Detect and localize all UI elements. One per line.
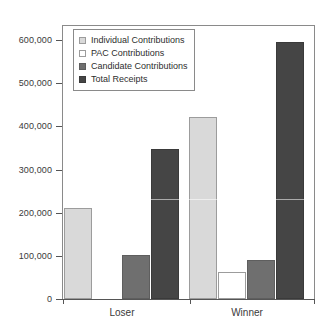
y-axis-label: 500,000 <box>19 79 52 88</box>
bar-loser-candidate-contributions <box>122 255 150 299</box>
legend-item: PAC Contributions <box>79 47 188 60</box>
y-axis-label: 400,000 <box>19 122 52 131</box>
x-axis-line <box>62 299 315 300</box>
y-axis-line <box>62 25 63 300</box>
legend-swatch-candidate-contributions <box>79 63 86 70</box>
bar-loser-total-receipts <box>151 149 179 299</box>
legend-swatch-total-receipts <box>79 76 86 83</box>
legend-item: Candidate Contributions <box>79 60 188 73</box>
bar-winner-pac-contributions <box>218 272 246 299</box>
legend-label: PAC Contributions <box>91 49 164 58</box>
bar-winner-total-receipts <box>276 42 304 299</box>
legend-swatch-pac-contributions <box>79 50 86 57</box>
bar-chart: 600,000500,000400,000300,000200,000100,0… <box>0 0 335 332</box>
y-axis-label: 0 <box>47 295 52 304</box>
y-axis-label: 100,000 <box>19 252 52 261</box>
legend-label: Total Receipts <box>91 75 148 84</box>
bar-winner-individual-contributions <box>189 117 217 299</box>
x-axis-label-winner: Winner <box>207 307 287 318</box>
legend-item: Individual Contributions <box>79 34 188 47</box>
legend-item: Total Receipts <box>79 73 188 86</box>
y-axis-label: 600,000 <box>19 36 52 45</box>
x-axis-tick <box>63 299 64 304</box>
x-axis-label-loser: Loser <box>82 307 162 318</box>
y-axis-label: 200,000 <box>19 209 52 218</box>
bar-winner-candidate-contributions <box>247 260 275 299</box>
y-axis-label: 300,000 <box>19 166 52 175</box>
x-axis-tick <box>314 299 315 304</box>
x-axis-tick <box>190 299 191 304</box>
legend-label: Candidate Contributions <box>91 62 188 71</box>
legend-swatch-individual-contributions <box>79 37 86 44</box>
bar-loser-individual-contributions <box>64 208 92 299</box>
legend-label: Individual Contributions <box>91 36 185 45</box>
chart-legend: Individual Contributions PAC Contributio… <box>73 29 195 91</box>
